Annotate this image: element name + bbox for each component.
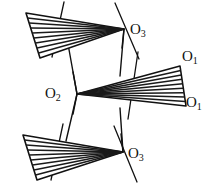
atom-label-o1-bottom-element: O <box>186 94 197 110</box>
atom-label-o1-top-subscript: 1 <box>193 55 198 66</box>
atom-label-o3-top-element: O <box>130 21 141 37</box>
atom-label-o1-bottom-subscript: 1 <box>197 101 202 112</box>
atom-label-o3-top-subscript: 3 <box>141 28 146 39</box>
structure-drawing <box>0 0 217 193</box>
atom-label-o2-element: O <box>45 85 56 101</box>
atom-label-o3-top: O3 <box>130 22 146 37</box>
atom-label-o2: O2 <box>45 86 61 101</box>
atom-label-o3-bottom-element: O <box>128 145 139 161</box>
molecular-structure-figure: O3 O2 O1 O1 O3 <box>0 0 217 193</box>
atom-label-o1-top-element: O <box>182 48 193 64</box>
atom-label-o1-top: O1 <box>182 49 198 64</box>
atom-label-o3-bottom: O3 <box>128 146 144 161</box>
atom-label-o2-subscript: 2 <box>56 92 61 103</box>
atom-label-o3-bottom-subscript: 3 <box>139 152 144 163</box>
atom-label-o1-bottom: O1 <box>186 95 202 110</box>
